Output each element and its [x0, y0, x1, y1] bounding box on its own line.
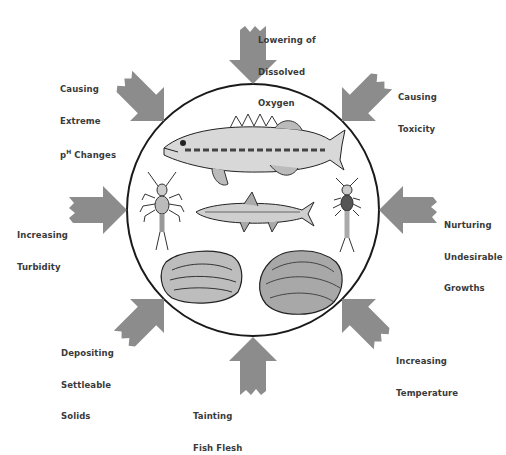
label-nurturing-undesirable-growths: Nurturing Undesirable Growths [444, 199, 503, 315]
label-line: Increasing [396, 356, 458, 367]
ph-changes-text: Changes [71, 150, 116, 160]
arrow-left [69, 186, 127, 234]
arrow-right [379, 186, 437, 234]
label-depositing-settleable-solids: Depositing Settleable Solids [61, 327, 114, 443]
label-lowering-dissolved-oxygen: Lowering of Dissolved Oxygen [258, 14, 316, 130]
label-tainting-fish-flesh: Tainting Fish Flesh [193, 390, 242, 455]
label-increasing-temperature: Increasing Temperature [396, 335, 458, 419]
label-line: Increasing [17, 230, 68, 241]
label-causing-toxicity: Causing Toxicity [398, 71, 437, 155]
label-line: Extreme [60, 116, 116, 127]
label-line: Lowering of [258, 35, 316, 46]
label-line: Oxygen [258, 98, 316, 109]
label-line: Fish Flesh [193, 443, 242, 454]
label-line: Solids [61, 411, 114, 422]
label-line: Causing [398, 92, 437, 103]
clam-illustration [260, 251, 343, 315]
label-line: Tainting [193, 411, 242, 422]
label-line: Toxicity [398, 124, 437, 135]
label-line: Dissolved [258, 67, 316, 78]
label-line: pH Changes [60, 147, 116, 160]
oyster-illustration [161, 251, 242, 303]
label-line: Settleable [61, 380, 114, 391]
label-increasing-turbidity: Increasing Turbidity [17, 209, 68, 293]
label-line: Depositing [61, 348, 114, 359]
label-line: Growths [444, 283, 503, 294]
label-line: Turbidity [17, 262, 68, 273]
label-line: Causing [60, 84, 116, 95]
label-line: Nurturing [444, 220, 503, 231]
label-causing-extreme-ph-changes: Causing Extreme pH Changes [60, 63, 116, 181]
label-line: Undesirable [444, 252, 503, 263]
label-line: Temperature [396, 388, 458, 399]
arrow-bottom [229, 337, 277, 395]
